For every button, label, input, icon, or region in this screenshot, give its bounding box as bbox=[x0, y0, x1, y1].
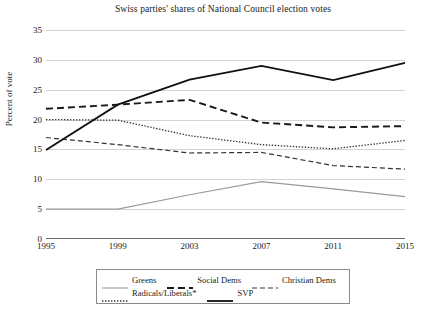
legend-row: Radicals/Liberals*SVP bbox=[102, 286, 344, 299]
legend-label: Social Dems bbox=[197, 275, 241, 285]
x-tick-label: 2003 bbox=[181, 241, 199, 251]
y-tick-label: 5 bbox=[4, 204, 42, 214]
x-tick-label: 1999 bbox=[109, 241, 127, 251]
series-line-svp bbox=[46, 63, 405, 150]
legend-swatch bbox=[167, 277, 193, 283]
series-line-christian-dems bbox=[46, 137, 405, 169]
series-line-social-dems bbox=[46, 100, 405, 127]
x-tick-label: 1995 bbox=[37, 241, 55, 251]
y-tick-label: 25 bbox=[4, 85, 42, 95]
plot-area bbox=[46, 30, 405, 239]
x-tick-label: 2011 bbox=[324, 241, 342, 251]
legend-swatch bbox=[102, 290, 128, 296]
legend-row: GreensSocial DemsChristian Dems bbox=[102, 273, 344, 286]
legend-label: SVP bbox=[237, 288, 253, 298]
legend-item[interactable]: Christian Dems bbox=[252, 275, 336, 285]
chart-legend: GreensSocial DemsChristian Dems Radicals… bbox=[96, 269, 350, 304]
y-axis-ticks: 05101520253035 bbox=[0, 30, 42, 239]
chart-container: Swiss parties' shares of National Counci… bbox=[0, 0, 446, 315]
series-line-greens bbox=[46, 182, 405, 209]
y-tick-label: 10 bbox=[4, 174, 42, 184]
y-tick-label: 30 bbox=[4, 55, 42, 65]
legend-label: Christian Dems bbox=[282, 275, 336, 285]
y-tick-label: 15 bbox=[4, 144, 42, 154]
y-tick-label: 20 bbox=[4, 115, 42, 125]
x-axis-ticks: 199519992003200720112015 bbox=[46, 241, 405, 257]
series-lines bbox=[46, 30, 405, 239]
x-axis-line bbox=[46, 238, 405, 239]
legend-label: Radicals/Liberals* bbox=[132, 288, 196, 298]
legend-swatch bbox=[252, 277, 278, 283]
x-tick-label: 2007 bbox=[252, 241, 270, 251]
legend-item[interactable]: Greens bbox=[102, 275, 156, 285]
legend-swatch bbox=[102, 277, 128, 283]
legend-label: Greens bbox=[132, 275, 156, 285]
legend-swatch bbox=[207, 290, 233, 296]
legend-item[interactable]: Social Dems bbox=[167, 275, 241, 285]
legend-item[interactable]: Radicals/Liberals* bbox=[102, 288, 196, 298]
series-line-radicals-liberals bbox=[46, 120, 405, 149]
y-tick-label: 35 bbox=[4, 25, 42, 35]
legend-item[interactable]: SVP bbox=[207, 288, 253, 298]
chart-title: Swiss parties' shares of National Counci… bbox=[0, 4, 446, 14]
x-tick-label: 2015 bbox=[396, 241, 414, 251]
